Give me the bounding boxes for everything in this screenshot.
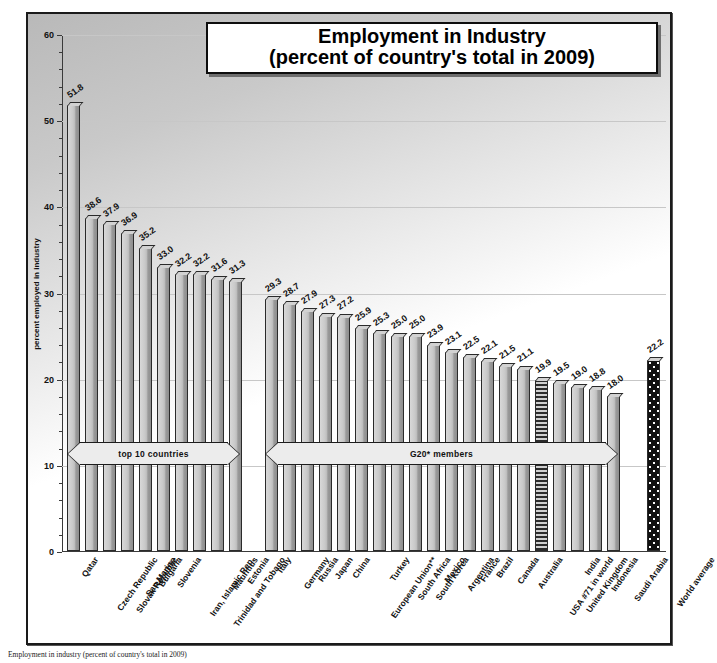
bar-item[interactable]: 35.2 bbox=[139, 248, 152, 551]
bar-top-face bbox=[373, 330, 389, 334]
bar[interactable] bbox=[589, 389, 602, 551]
bar-value-label: 51.8 bbox=[66, 81, 86, 99]
y-axis-minor-tick bbox=[59, 311, 62, 312]
bar-item[interactable]: 22.2 bbox=[647, 360, 660, 551]
bar-item[interactable]: 27.9 bbox=[301, 311, 314, 551]
bar-value-label: 19.0 bbox=[570, 364, 590, 382]
bar-value-label: 22.5 bbox=[462, 334, 482, 352]
bar-top-face bbox=[535, 377, 551, 381]
y-axis-minor-tick bbox=[59, 225, 62, 226]
bar-value-label: 21.5 bbox=[498, 343, 518, 361]
bar[interactable] bbox=[265, 299, 278, 551]
bar-series: 51.838.637.936.935.233.032.232.231.631.3… bbox=[63, 35, 666, 551]
bar[interactable] bbox=[553, 383, 566, 551]
bar-top-face bbox=[589, 386, 605, 390]
bar[interactable] bbox=[607, 396, 620, 551]
y-axis-minor-tick bbox=[59, 431, 62, 432]
y-axis-minor-tick bbox=[59, 242, 62, 243]
bar[interactable] bbox=[139, 248, 152, 551]
bar-top-face bbox=[175, 271, 191, 275]
bar-value-label: 22.2 bbox=[646, 336, 666, 354]
bar-top-face bbox=[265, 296, 281, 300]
bar[interactable] bbox=[535, 380, 548, 551]
x-axis-label: Qatar bbox=[80, 555, 101, 579]
annotation-g20-members: G20* members bbox=[277, 442, 606, 465]
bar-item[interactable]: 29.3 bbox=[265, 299, 278, 551]
bar-top-face bbox=[647, 357, 663, 361]
y-axis-tick-label: 60 bbox=[44, 30, 54, 40]
bar-top-face bbox=[391, 333, 407, 337]
y-axis-tick-label: 50 bbox=[44, 116, 54, 126]
bar-top-face bbox=[427, 342, 443, 346]
bar-item[interactable]: 37.9 bbox=[103, 224, 116, 551]
bar[interactable] bbox=[355, 328, 368, 551]
y-axis-tick bbox=[57, 552, 62, 553]
bar-item[interactable]: 18.8 bbox=[589, 389, 602, 551]
bar-value-label: 33.0 bbox=[156, 243, 176, 261]
bar-item[interactable]: 28.7 bbox=[283, 304, 296, 551]
bar-item[interactable]: 25.9 bbox=[355, 328, 368, 551]
bar[interactable] bbox=[193, 274, 206, 551]
y-axis-tick bbox=[57, 207, 62, 208]
bar-item[interactable]: 19.9 bbox=[535, 380, 548, 551]
y-axis-tick bbox=[57, 380, 62, 381]
bar-item[interactable]: 36.9 bbox=[121, 233, 134, 551]
bar[interactable] bbox=[229, 281, 242, 551]
bar-value-label: 18.0 bbox=[606, 373, 626, 391]
chart-title: Employment in Industry (percent of count… bbox=[206, 22, 658, 74]
bar-item[interactable]: 38.6 bbox=[85, 218, 98, 551]
bar-top-face bbox=[553, 380, 569, 384]
bar-value-label: 19.5 bbox=[552, 360, 572, 378]
y-axis-tick-label: 40 bbox=[44, 202, 54, 212]
bar-value-label: 31.6 bbox=[210, 255, 230, 273]
y-axis-minor-tick bbox=[59, 276, 62, 277]
bar[interactable] bbox=[175, 274, 188, 551]
bar-value-label: 28.7 bbox=[282, 280, 302, 298]
bar-value-label: 36.9 bbox=[120, 210, 140, 228]
bar-item[interactable]: 27.3 bbox=[319, 316, 332, 551]
bar-item[interactable]: 33.0 bbox=[157, 267, 170, 551]
bar-item[interactable]: 51.8 bbox=[67, 105, 80, 551]
bar-item[interactable]: 31.3 bbox=[229, 281, 242, 551]
bar-top-face bbox=[193, 271, 209, 275]
bar[interactable] bbox=[647, 360, 660, 551]
y-axis-minor-tick bbox=[59, 535, 62, 536]
bar[interactable] bbox=[121, 233, 134, 551]
bar-item[interactable]: 27.2 bbox=[337, 317, 350, 551]
bar[interactable] bbox=[571, 387, 584, 551]
bar[interactable] bbox=[319, 316, 332, 551]
bar-item[interactable]: 19.5 bbox=[553, 383, 566, 551]
bar[interactable] bbox=[301, 311, 314, 551]
bar-value-label: 27.3 bbox=[318, 293, 338, 311]
y-axis-minor-tick bbox=[59, 69, 62, 70]
bar-item[interactable]: 31.6 bbox=[211, 279, 224, 551]
bar[interactable] bbox=[157, 267, 170, 551]
bar-top-face bbox=[103, 221, 119, 225]
y-axis-tick bbox=[57, 294, 62, 295]
bar-top-face bbox=[67, 102, 83, 106]
bar-item[interactable]: 32.2 bbox=[175, 274, 188, 551]
y-axis-minor-tick bbox=[59, 87, 62, 88]
bar[interactable] bbox=[103, 224, 116, 551]
annotation-g20-label: G20* members bbox=[410, 449, 473, 459]
y-axis-minor-tick bbox=[59, 500, 62, 501]
bar[interactable] bbox=[283, 304, 296, 551]
y-axis-minor-tick bbox=[59, 138, 62, 139]
arrow-head-right-icon bbox=[227, 443, 239, 465]
bar-value-label: 32.2 bbox=[174, 250, 194, 268]
y-axis-minor-tick bbox=[59, 259, 62, 260]
bar-value-label: 23.9 bbox=[426, 322, 446, 340]
bar[interactable] bbox=[67, 105, 80, 551]
bar-item[interactable]: 18.0 bbox=[607, 396, 620, 551]
bar[interactable] bbox=[85, 218, 98, 551]
bar-top-face bbox=[283, 301, 299, 305]
annotation-top10-countries: top 10 countries bbox=[79, 442, 228, 465]
bar[interactable] bbox=[211, 279, 224, 551]
bar-item[interactable]: 32.2 bbox=[193, 274, 206, 551]
bar-top-face bbox=[607, 393, 623, 397]
x-axis-label: World average bbox=[675, 555, 717, 609]
bar-top-face bbox=[211, 276, 227, 280]
bar-item[interactable]: 19.0 bbox=[571, 387, 584, 551]
y-axis-minor-tick bbox=[59, 518, 62, 519]
bar[interactable] bbox=[337, 317, 350, 551]
